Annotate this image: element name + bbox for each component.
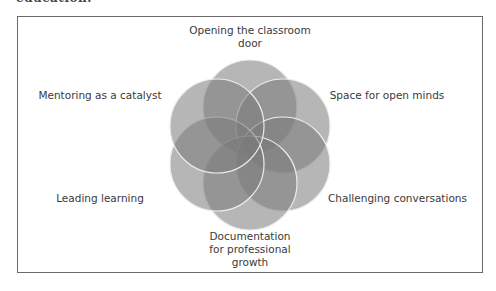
label-leading-learning: Leading learning [40,192,160,205]
label-space-open-minds: Space for open minds [322,89,452,102]
circle-mentoring [170,79,264,173]
label-opening-classroom-door: Opening the classroom door [180,24,320,50]
label-mentoring-catalyst: Mentoring as a catalyst [30,89,170,102]
label-documentation-professional-growth: Documentation for professional growth [190,230,310,269]
label-line: Opening the classroom [180,24,320,37]
label-challenging-conversations: Challenging conversations [325,192,470,205]
label-line: growth [190,256,310,269]
label-line: Documentation [190,230,310,243]
label-line: for professional [190,243,310,256]
label-line: door [180,37,320,50]
